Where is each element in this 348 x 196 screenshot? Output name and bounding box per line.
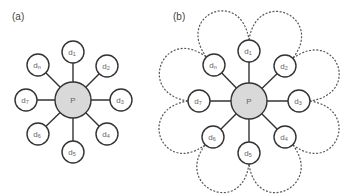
panel-b: Pd1d2d3d4d5d6d7dn(b) (159, 11, 339, 193)
panel-label-a: (a) (12, 11, 24, 22)
diagram-canvas: Pd1d2d3d4d5d6d7dn(a)Pd1d2d3d4d5d6d7dn(b) (0, 0, 348, 196)
panel-a: Pd1d2d3d4d5d6d7dn(a) (12, 11, 132, 163)
hub-label: P (246, 97, 251, 106)
panel-label-b: (b) (173, 11, 185, 22)
hub-label: P (70, 96, 75, 105)
